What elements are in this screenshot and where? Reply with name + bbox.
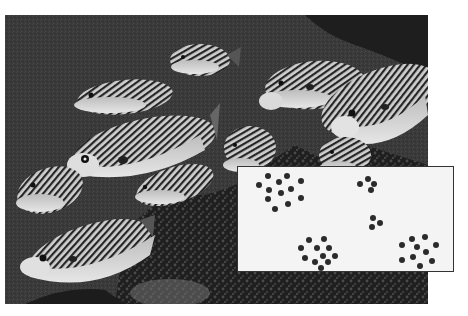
dot-cluster-inset [237, 166, 454, 272]
cluster-top-left [256, 173, 304, 212]
cluster-top-middle [357, 176, 377, 193]
cluster-bottom-middle [298, 236, 338, 271]
cluster-bottom-right [399, 234, 439, 269]
cluster-middle [369, 215, 383, 230]
